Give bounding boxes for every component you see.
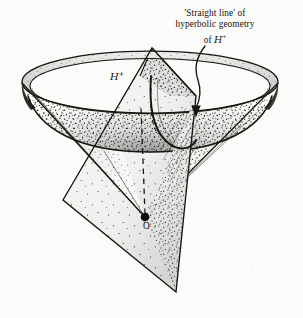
- figure-root: 'Straight line' of hyperbolic geometry o…: [0, 0, 303, 318]
- caption-line-3: of H+: [152, 31, 278, 47]
- caption-line-3-prefix: of: [204, 35, 214, 45]
- caption-line-1: 'Straight line' of: [152, 8, 278, 19]
- caption-script-h-icon: H: [214, 34, 222, 45]
- callout-caption: 'Straight line' of hyperbolic geometry o…: [152, 8, 278, 46]
- apex-label-o: O: [143, 221, 150, 231]
- caption-line-2: hyperbolic geometry: [152, 19, 278, 30]
- apex-point: [141, 213, 150, 222]
- surface-label-h-plus: H+: [110, 70, 124, 82]
- light-cone-diagram-svg: [0, 0, 303, 318]
- surface-superscript-plus: +: [119, 70, 125, 78]
- caption-superscript-plus: +: [223, 33, 227, 40]
- surface-script-h-icon: H: [110, 71, 119, 82]
